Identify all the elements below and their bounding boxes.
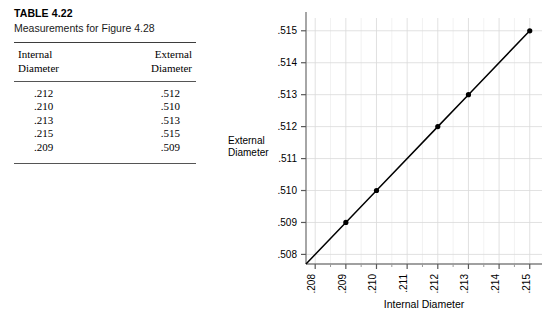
- y-tick-label: .513: [278, 89, 298, 100]
- column-header-external-diameter: External Diameter: [112, 48, 196, 75]
- table-rule-bottom: [14, 163, 196, 164]
- y-tick-label: .510: [278, 185, 298, 196]
- y-tick-label: .508: [278, 249, 298, 260]
- cell-internal-diameter: .212: [14, 87, 113, 100]
- y-axis-title-line1: External: [228, 135, 290, 147]
- x-axis-title: Internal Diameter: [384, 298, 465, 310]
- cell-external-diameter: .510: [113, 100, 196, 113]
- scatter-line-chart: .508.509.510.511.512.513.514.515.208.209…: [225, 0, 554, 318]
- y-tick-label: .512: [278, 121, 298, 132]
- data-series: [306, 28, 532, 264]
- column-header-internal-diameter: Internal Diameter: [14, 48, 112, 75]
- data-point: [527, 28, 532, 33]
- cell-internal-diameter: .209: [14, 141, 113, 154]
- cell-external-diameter: .509: [113, 141, 196, 154]
- data-point: [435, 124, 440, 129]
- column-header-internal-line2: Diameter: [18, 62, 112, 76]
- x-tick-label: .214: [490, 274, 501, 294]
- x-tick-label: .209: [337, 274, 348, 294]
- y-tick-label: .514: [278, 57, 298, 68]
- table-row: .209.509: [14, 141, 196, 154]
- x-tick-label: .212: [429, 274, 440, 294]
- column-header-external-line2: Diameter: [112, 62, 192, 76]
- cell-internal-diameter: .213: [14, 114, 113, 127]
- x-tick-label: .213: [459, 274, 470, 294]
- x-tick-label: .208: [306, 274, 317, 294]
- data-line: [306, 31, 530, 264]
- cell-internal-diameter: .210: [14, 100, 113, 113]
- table-header-row: Internal Diameter External Diameter: [14, 43, 196, 79]
- table-title: TABLE 4.22: [14, 6, 196, 20]
- y-tick-label: .509: [278, 217, 298, 228]
- data-point: [374, 188, 379, 193]
- table-row: .212.512: [14, 87, 196, 100]
- x-tick-label: .210: [367, 274, 378, 294]
- data-point: [343, 220, 348, 225]
- chart-svg: .508.509.510.511.512.513.514.515.208.209…: [225, 0, 554, 318]
- measurements-table-block: TABLE 4.22 Measurements for Figure 4.28 …: [14, 6, 196, 164]
- table-body: .212.512.210.510.213.513.215.515.209.509: [14, 82, 196, 157]
- column-header-external-line1: External: [112, 48, 192, 62]
- data-point: [466, 92, 471, 97]
- table-row: .215.515: [14, 127, 196, 140]
- x-tick-label: .211: [398, 274, 409, 293]
- y-tick-label: .515: [278, 25, 298, 36]
- y-axis-title: External Diameter: [228, 135, 290, 159]
- cell-internal-diameter: .215: [14, 127, 113, 140]
- x-tick-label: .215: [521, 274, 532, 294]
- cell-external-diameter: .515: [113, 127, 196, 140]
- column-header-internal-line1: Internal: [18, 48, 112, 62]
- table-row: .213.513: [14, 114, 196, 127]
- table-row: .210.510: [14, 100, 196, 113]
- table-subtitle: Measurements for Figure 4.28: [14, 21, 196, 36]
- cell-external-diameter: .513: [113, 114, 196, 127]
- axis-titles: Internal Diameter: [384, 298, 465, 310]
- y-axis-title-line2: Diameter: [228, 147, 290, 159]
- cell-external-diameter: .512: [113, 87, 196, 100]
